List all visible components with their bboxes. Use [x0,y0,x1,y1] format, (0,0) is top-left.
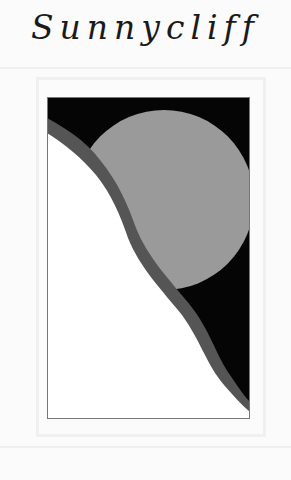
divider [0,446,291,448]
sunnycliff-emblem [0,0,291,480]
